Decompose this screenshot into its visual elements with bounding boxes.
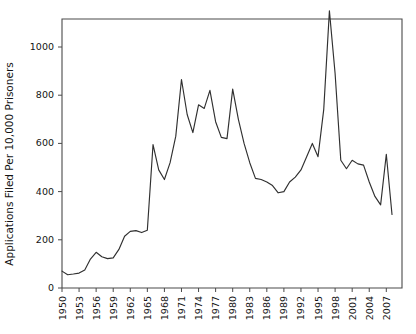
x-tick-label: 2004 bbox=[364, 296, 375, 320]
y-tick-label: 200 bbox=[36, 234, 54, 245]
x-tick-label: 1974 bbox=[193, 296, 204, 320]
x-tick-label: 1959 bbox=[108, 296, 119, 320]
x-tick-label: 1950 bbox=[57, 296, 68, 320]
plot-axes bbox=[62, 19, 402, 288]
axis-frame bbox=[62, 19, 402, 288]
chart-figure: Applications Filed Per 10,000 Prisoners … bbox=[0, 0, 416, 334]
y-tick-label: 800 bbox=[36, 89, 54, 100]
x-tick-label: 1968 bbox=[159, 296, 170, 320]
x-tick-label: 2001 bbox=[347, 296, 358, 320]
y-axis-label-text: Applications Filed Per 10,000 Prisoners bbox=[3, 62, 15, 265]
data-series bbox=[62, 11, 392, 275]
x-axis-ticks: 1950195319561959196219651968197119741977… bbox=[57, 288, 392, 320]
x-tick-label: 1971 bbox=[176, 296, 187, 320]
y-tick-label: 600 bbox=[36, 137, 54, 148]
x-tick-label: 1986 bbox=[261, 296, 272, 320]
x-tick-label: 1965 bbox=[142, 296, 153, 320]
line-chart: Applications Filed Per 10,000 Prisoners … bbox=[0, 0, 416, 334]
x-tick-label: 1995 bbox=[313, 296, 324, 320]
x-tick-label: 2007 bbox=[381, 296, 392, 320]
series-line-applications bbox=[62, 11, 392, 275]
y-axis-ticks: 02004006008001000 bbox=[30, 41, 62, 293]
x-tick-label: 1977 bbox=[210, 296, 221, 320]
x-tick-label: 1992 bbox=[295, 296, 306, 320]
y-tick-label: 400 bbox=[36, 186, 54, 197]
y-axis-label: Applications Filed Per 10,000 Prisoners bbox=[3, 62, 15, 265]
y-tick-label: 0 bbox=[48, 282, 54, 293]
x-tick-label: 1956 bbox=[91, 296, 102, 320]
x-tick-label: 1962 bbox=[125, 296, 136, 320]
x-tick-label: 1998 bbox=[330, 296, 341, 320]
x-tick-label: 1989 bbox=[278, 296, 289, 320]
y-tick-label: 1000 bbox=[30, 41, 54, 52]
x-tick-label: 1983 bbox=[244, 296, 255, 320]
x-tick-label: 1953 bbox=[74, 296, 85, 320]
x-tick-label: 1980 bbox=[227, 296, 238, 320]
